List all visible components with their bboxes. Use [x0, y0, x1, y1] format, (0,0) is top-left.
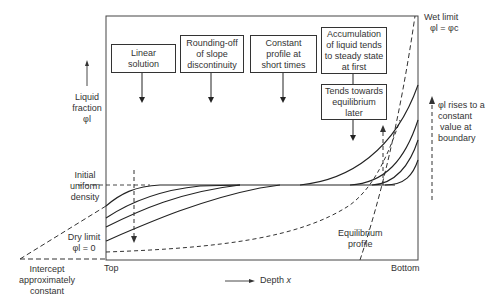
label-line: φl = φc	[424, 23, 458, 34]
boundary-rise-label: φl rises to a constant value at boundary	[438, 100, 485, 144]
x-axis-label: Depth x	[260, 275, 291, 286]
box-tends-towards-equilibrium: Tends towards equilibrium later	[321, 84, 387, 120]
box2-arrow-head	[208, 97, 214, 103]
label-line: uniform	[66, 181, 104, 192]
box-text: discontinuity	[187, 60, 237, 71]
label-line: approximately	[18, 275, 76, 286]
y-axis-label-line: fraction	[70, 103, 104, 114]
dry-limit-label: Dry limit φl = 0	[64, 232, 104, 254]
y-axis-label-line: φl	[70, 114, 104, 125]
label-line: constant	[438, 111, 485, 122]
label-line: Equilibrium	[338, 228, 383, 239]
box1-arrow-head	[139, 97, 145, 103]
drying-arrow-head	[131, 236, 137, 243]
box-text: of liquid tends	[326, 40, 382, 51]
y-axis-arrow-head	[85, 60, 89, 66]
box-text: Rounding-off	[186, 38, 237, 49]
equilibrium-profile-label: Equilibrium profile	[338, 228, 383, 250]
box-text: Accumulation	[327, 29, 381, 40]
box5-arrow-head	[350, 135, 356, 141]
x-axis-arrow-head	[249, 279, 255, 283]
label-line: value at	[438, 122, 485, 133]
box-text: Tends towards	[325, 86, 383, 97]
diagram-canvas	[0, 0, 497, 305]
x-axis-label-text: Depth	[260, 275, 284, 285]
box-text: profile at	[266, 49, 301, 60]
box-text: equilibrium	[332, 97, 376, 108]
x-axis-variable: x	[287, 275, 292, 285]
y-axis-label-line: Liquid	[70, 92, 104, 103]
intercept-label: Intercept approximately constant	[18, 264, 76, 297]
x-axis-bottom-label: Bottom	[391, 263, 420, 274]
box-text: short times	[261, 60, 305, 71]
box3-arrow-head	[280, 97, 286, 103]
label-line: density	[66, 192, 104, 203]
label-line: profile	[338, 239, 383, 250]
equilibrium-arrow-head	[380, 125, 386, 132]
box-text: of slope	[196, 49, 228, 60]
box-accumulation: Accumulation of liquid tends to steady s…	[321, 27, 387, 74]
initial-density-label: Initial uniform density	[66, 170, 104, 203]
label-line: boundary	[438, 133, 485, 144]
label-line: Initial	[66, 170, 104, 181]
label-line: Dry limit	[64, 232, 104, 243]
wet-limit-label: Wet limit φl = φc	[424, 12, 458, 34]
label-line: φl = 0	[64, 243, 104, 254]
box-rounding-off: Rounding-off of slope discontinuity	[180, 35, 244, 73]
box-text: at first	[342, 62, 367, 73]
label-line: Wet limit	[424, 12, 458, 23]
box-text: solution	[128, 59, 159, 70]
boundary-rise-arrow-head	[429, 96, 435, 104]
y-axis-label: Liquid fraction φl	[70, 92, 104, 125]
box-constant-profile: Constant profile at short times	[250, 35, 317, 73]
label-line: constant	[18, 286, 76, 297]
box-text: Linear	[131, 48, 156, 59]
box-linear-solution: Linear solution	[111, 44, 176, 73]
rising-curve-3	[372, 140, 418, 185]
label-line: Intercept	[18, 264, 76, 275]
x-axis-top-label: Top	[104, 263, 119, 274]
box-text: later	[345, 108, 363, 119]
box-text: Constant	[265, 38, 301, 49]
rising-curve-4	[385, 160, 418, 185]
box-text: to steady state	[325, 51, 384, 62]
label-line: φl rises to a	[438, 100, 485, 111]
